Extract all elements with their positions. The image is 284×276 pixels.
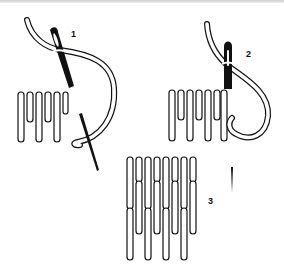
stitch-loop [127, 157, 133, 209]
stitch-loop [163, 208, 169, 260]
stitch-loop [45, 92, 51, 122]
stitch-loop [169, 90, 175, 141]
stitch-loop [196, 90, 202, 120]
stitch-loop [145, 157, 151, 209]
stitch-loop [172, 181, 178, 234]
stitch-loop [154, 157, 160, 182]
stitch-loop [172, 157, 178, 182]
step-2-illustration: 2 [169, 24, 268, 141]
step-1-stitches [18, 92, 68, 142]
embroidery-diagram: 1 2 3 [0, 0, 284, 276]
stitch-loop [127, 208, 133, 260]
stitch-loop [178, 90, 184, 120]
step-label-2: 2 [246, 49, 251, 59]
stitch-loop [18, 92, 24, 142]
stitch-loop [36, 92, 42, 142]
step-label-3: 3 [208, 196, 213, 206]
stitch-loop [163, 157, 169, 209]
stitch-loop [136, 157, 142, 182]
stitch-loop [205, 90, 211, 141]
stitch-loop [214, 90, 220, 120]
stitch-loop [181, 208, 187, 260]
stitch-loop [63, 92, 68, 114]
stitch-loop [54, 92, 60, 142]
step-2-stitches [169, 90, 227, 141]
stitch-loop [221, 90, 227, 141]
step-1-illustration: 1 [18, 20, 114, 171]
step-label-1: 1 [71, 29, 76, 39]
step-3-illustration: 3 [127, 157, 233, 260]
stitch-loop [190, 181, 196, 234]
stitch-loop [145, 208, 151, 260]
stitch-loop [136, 181, 142, 234]
stitch-loop [187, 90, 193, 141]
stitch-loop [27, 92, 33, 122]
stitch-loop [154, 181, 160, 234]
stitch-loop [190, 157, 196, 182]
step-3-stitches [127, 157, 196, 260]
needle-mark-icon [231, 167, 233, 193]
stitch-loop [181, 157, 187, 209]
